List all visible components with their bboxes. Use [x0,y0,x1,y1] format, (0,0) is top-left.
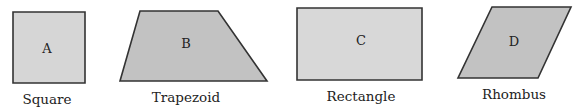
square-figure: A Square [13,12,85,107]
rhombus-letter: D [509,34,519,49]
trapezoid-shape [120,11,267,81]
rectangle-letter: C [356,33,366,48]
shapes-diagram: A Square B Trapezoid C Rectangle D Rhomb… [0,0,580,110]
trapezoid-label: Trapezoid [152,89,221,105]
rectangle-label: Rectangle [327,88,396,104]
square-label: Square [22,91,71,107]
trapezoid-figure: B Trapezoid [120,11,267,105]
rhombus-label: Rhombus [482,86,546,102]
trapezoid-letter: B [181,36,191,51]
square-letter: A [41,41,52,56]
rectangle-figure: C Rectangle [297,8,422,104]
rhombus-figure: D Rhombus [458,7,571,102]
